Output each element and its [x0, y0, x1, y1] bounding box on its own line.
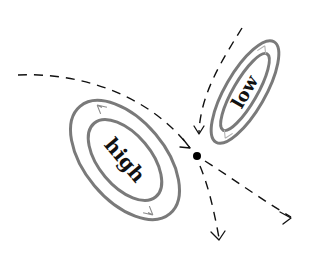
- flow-incoming-top-arrowhead-icon: [194, 126, 204, 134]
- fixed-point: [193, 152, 201, 160]
- flow-incoming-left-arrowhead-icon: [180, 139, 190, 148]
- high-circulation-arrow-bottom-icon: [142, 206, 155, 219]
- phase-diagram: high low: [0, 0, 309, 255]
- region-low: low: [199, 32, 292, 152]
- flow-outgoing-right: [205, 161, 291, 217]
- flow-incoming-left: [18, 75, 190, 148]
- high-circulation-arrow-top-icon: [95, 101, 108, 114]
- flow-outgoing-down: [200, 166, 219, 238]
- region-high: high: [49, 81, 200, 240]
